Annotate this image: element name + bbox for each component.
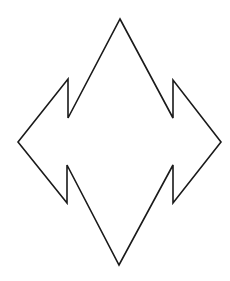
zigzag-diamond-figure bbox=[0, 0, 230, 281]
diagram-canvas bbox=[0, 0, 230, 281]
zigzag-diamond-outline bbox=[18, 19, 221, 265]
